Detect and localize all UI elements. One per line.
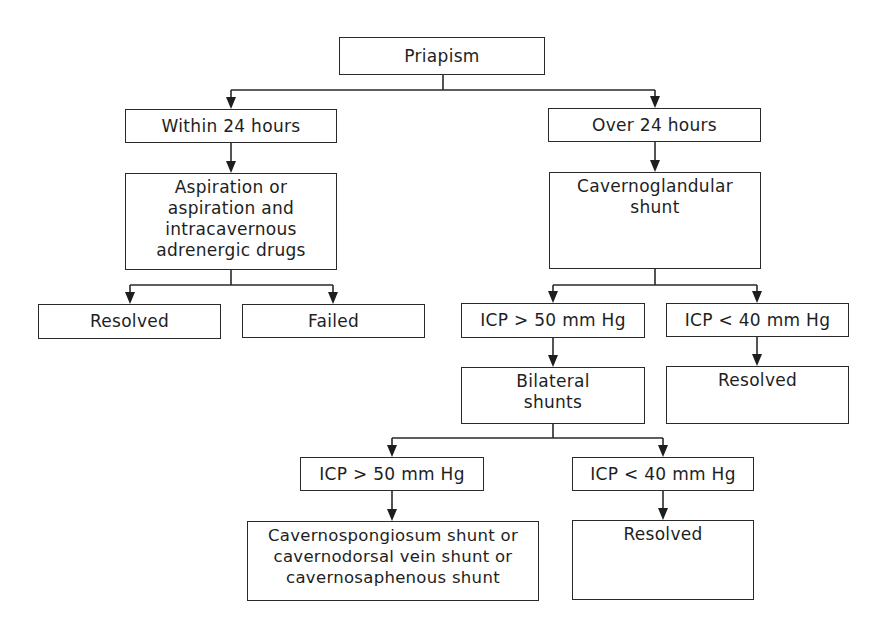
arrowhead-icon (125, 292, 135, 304)
node-label: Aspiration or aspiration and intracavern… (156, 177, 305, 260)
arrowhead-icon (328, 292, 338, 304)
arrowhead-icon (548, 291, 558, 303)
arrowhead-icon (658, 508, 668, 520)
edge-aspiration-split (130, 270, 333, 292)
node-cavernoglandular-shunt: Cavernoglandular shunt (549, 172, 761, 269)
node-label: Within 24 hours (162, 116, 301, 137)
arrowhead-icon (752, 291, 762, 303)
node-label: Priapism (404, 46, 479, 67)
arrowhead-icon (650, 96, 660, 108)
arrowhead-icon (387, 509, 397, 521)
node-failed: Failed (242, 304, 425, 338)
arrowhead-icon (226, 97, 236, 109)
node-resolved-3: Resolved (572, 520, 754, 600)
arrowhead-icon (226, 161, 236, 173)
flowchart-canvas: Priapism Within 24 hours Aspiration or a… (0, 0, 886, 625)
node-label: Resolved (718, 370, 797, 390)
node-aspiration: Aspiration or aspiration and intracavern… (125, 173, 337, 270)
node-label: Over 24 hours (592, 115, 717, 136)
node-icp-lt-40-2: ICP < 40 mm Hg (572, 457, 754, 491)
arrowhead-icon (650, 160, 660, 172)
node-within-24-hours: Within 24 hours (125, 109, 337, 143)
edge-priapism-split (231, 75, 655, 90)
node-bilateral-shunts: Bilateral shunts (461, 367, 645, 424)
node-icp-gt-50-1: ICP > 50 mm Hg (461, 303, 645, 338)
node-resolved-1: Resolved (38, 304, 221, 339)
node-cavernospongiosum-shunt: Cavernospongiosum shunt or cavernodorsal… (247, 521, 539, 601)
arrowhead-icon (387, 445, 397, 457)
node-label: Cavernospongiosum shunt or cavernodorsal… (268, 526, 518, 587)
node-label: ICP < 40 mm Hg (685, 310, 831, 331)
node-icp-gt-50-2: ICP > 50 mm Hg (300, 457, 484, 491)
node-label: ICP < 40 mm Hg (590, 464, 736, 485)
node-label: Bilateral shunts (516, 371, 589, 412)
node-icp-lt-40-1: ICP < 40 mm Hg (666, 303, 849, 337)
node-label: ICP > 50 mm Hg (480, 310, 626, 331)
node-over-24-hours: Over 24 hours (548, 108, 761, 142)
arrowhead-icon (752, 354, 762, 366)
node-label: Cavernoglandular shunt (577, 176, 733, 217)
edge-bilateral-split (392, 424, 663, 445)
node-priapism: Priapism (339, 37, 545, 75)
edge-cavernoglandular-split (553, 269, 757, 291)
node-label: Resolved (623, 524, 702, 544)
arrowhead-icon (658, 445, 668, 457)
node-label: Failed (308, 311, 359, 332)
node-label: ICP > 50 mm Hg (319, 464, 465, 485)
node-label: Resolved (90, 311, 169, 332)
arrowhead-icon (548, 355, 558, 367)
node-resolved-2: Resolved (666, 366, 849, 424)
